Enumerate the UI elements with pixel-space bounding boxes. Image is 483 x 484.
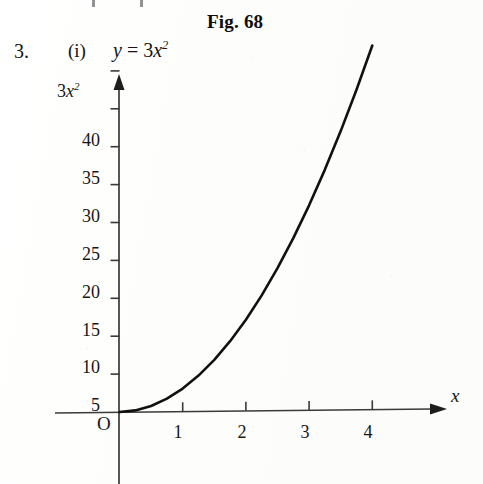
x-axis-tick-label: 2 [229,422,255,443]
x-axis-tick-label: 1 [165,422,191,443]
x-axis-tick-label: 4 [355,422,381,443]
y-axis-tick-label: 25 [54,244,100,265]
y-axis-tick-label: 20 [54,282,100,303]
y-axis-tick-label: 40 [54,130,100,151]
y-axis-tick-label: 30 [54,206,100,227]
y-axis-tick-label: 10 [54,357,100,378]
x-axis-tick-label: 3 [292,422,318,443]
figure-page: Fig. 68 3. (i) y = 3x2 3x2 x O 403530252… [0,0,483,484]
x-axis-arrowhead [430,404,447,415]
y-axis-tick-label: 5 [54,395,100,416]
y-axis-arrowhead [114,74,125,90]
parabola-curve [120,45,373,412]
y-axis-tick-label: 15 [54,320,100,341]
x-axis-line [55,409,432,413]
y-axis-tick-label: 35 [54,168,100,189]
